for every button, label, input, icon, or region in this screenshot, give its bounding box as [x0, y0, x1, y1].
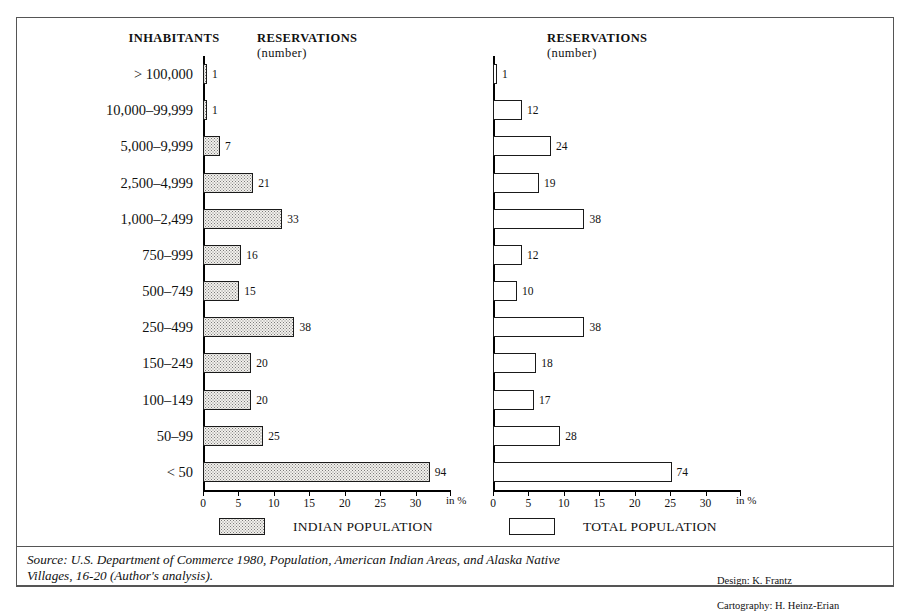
legend-label-total-population: TOTAL POPULATION — [583, 519, 717, 535]
bar-value-label: 12 — [527, 249, 539, 261]
bar-value-label: 18 — [541, 357, 553, 369]
bar-value-label: 10 — [522, 285, 534, 297]
axis-tick — [564, 491, 565, 496]
bar-value-label: 74 — [677, 466, 689, 478]
category-label: 500–749 — [17, 284, 193, 299]
axis-tick-label: 0 — [490, 497, 496, 509]
bar-value-label: 16 — [246, 249, 258, 261]
bar — [493, 136, 551, 156]
bar — [203, 245, 241, 265]
bar — [493, 281, 517, 301]
axis-tick-label: 30 — [700, 497, 712, 509]
axis-tick-label: 5 — [236, 497, 242, 509]
bar — [493, 173, 539, 193]
bar — [203, 209, 282, 229]
category-label: 10,000–99,999 — [17, 103, 193, 118]
legend-swatch-total-population — [509, 518, 555, 535]
axis-tick — [493, 491, 494, 496]
bar — [203, 281, 239, 301]
axis-tick — [345, 491, 346, 496]
axis-tick-label: 20 — [339, 497, 351, 509]
bar — [203, 100, 207, 120]
chart-frame: INHABITANTS RESERVATIONS (number) RESERV… — [16, 17, 894, 587]
axis-tick-label: 10 — [268, 497, 280, 509]
inhabitants-header: INHABITANTS — [79, 31, 269, 46]
bar — [203, 353, 251, 373]
legend-label-indian-population: INDIAN POPULATION — [293, 519, 433, 535]
bar — [203, 390, 251, 410]
axis-tick — [635, 491, 636, 496]
bar-value-label: 12 — [527, 104, 539, 116]
bar-value-label: 17 — [539, 394, 551, 406]
bar — [493, 245, 522, 265]
left-chart-title-line1: RESERVATIONS — [257, 31, 357, 46]
category-label: 2,500–4,999 — [17, 176, 193, 191]
right-unit-label: in % — [736, 494, 756, 506]
bar — [203, 173, 253, 193]
axis-tick-label: 30 — [410, 497, 422, 509]
category-label: < 50 — [17, 465, 193, 480]
axis-tick-label: 25 — [664, 497, 676, 509]
axis-tick — [599, 491, 600, 496]
axis-tick — [203, 491, 204, 496]
axis-tick — [528, 491, 529, 496]
bar-value-label: 38 — [589, 321, 601, 333]
left-legend: INDIAN POPULATION — [203, 518, 503, 540]
right-category-axis — [493, 490, 741, 492]
category-label: 250–499 — [17, 320, 193, 335]
total-population-plot: 11224193812103818172874 051015202530 in … — [493, 56, 793, 501]
bar — [493, 209, 584, 229]
bar-value-label: 24 — [556, 140, 568, 152]
axis-tick — [706, 491, 707, 496]
axis-tick-label: 15 — [304, 497, 316, 509]
bar — [203, 136, 220, 156]
legend-swatch-indian-population — [219, 518, 265, 535]
bar-value-label: 38 — [589, 213, 601, 225]
footer-divider-bottom — [17, 585, 893, 586]
bar — [493, 390, 534, 410]
bar — [203, 64, 207, 84]
bar-value-label: 20 — [256, 394, 268, 406]
bar-value-label: 94 — [435, 466, 447, 478]
left-unit-label: in % — [446, 494, 466, 506]
bar — [203, 426, 263, 446]
bar-value-label: 15 — [244, 285, 256, 297]
bar — [493, 462, 672, 482]
bar-value-label: 7 — [225, 140, 231, 152]
axis-tick — [416, 491, 417, 496]
category-label: 750–999 — [17, 248, 193, 263]
bar — [203, 462, 430, 482]
right-legend: TOTAL POPULATION — [493, 518, 803, 540]
bar — [493, 317, 584, 337]
category-label: 50–99 — [17, 429, 193, 444]
category-label: 5,000–9,999 — [17, 139, 193, 154]
category-label: 100–149 — [17, 393, 193, 408]
axis-tick-label: 25 — [374, 497, 386, 509]
axis-tick — [274, 491, 275, 496]
bar-value-label: 25 — [268, 430, 280, 442]
bar — [493, 100, 522, 120]
inhabitants-header-label: INHABITANTS — [79, 31, 269, 46]
indian-population-plot: 117213316153820202594 051015202530 in % — [203, 56, 493, 501]
right-chart-title-line1: RESERVATIONS — [547, 31, 647, 46]
bar-value-label: 1 — [212, 68, 218, 80]
source-note: Source: U.S. Department of Commerce 1980… — [27, 552, 637, 584]
bar-value-label: 33 — [287, 213, 299, 225]
credit-cartography: Cartography: H. Heinz-Erian — [717, 600, 892, 613]
axis-tick — [380, 491, 381, 496]
bar — [493, 426, 560, 446]
bar-value-label: 1 — [212, 104, 218, 116]
category-label: 1,000–2,499 — [17, 212, 193, 227]
footer-divider-top — [17, 546, 893, 547]
credits: Design: K. Frantz Cartography: H. Heinz-… — [717, 562, 892, 615]
bar — [203, 317, 294, 337]
axis-tick-label: 15 — [594, 497, 606, 509]
axis-tick-label: 10 — [558, 497, 570, 509]
axis-tick-label: 0 — [200, 497, 206, 509]
left-category-axis — [203, 490, 451, 492]
bar — [493, 64, 497, 84]
axis-tick — [238, 491, 239, 496]
axis-tick — [309, 491, 310, 496]
bar — [493, 353, 536, 373]
axis-tick-label: 20 — [629, 497, 641, 509]
